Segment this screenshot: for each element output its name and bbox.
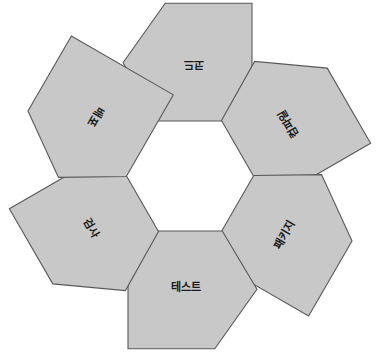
cycle-node-label-code: 코드 bbox=[184, 59, 204, 71]
diagram-canvas: 코드컴파일패키지테스트검사배포 bbox=[0, 0, 379, 353]
cycle-node-label-test: 테스트 bbox=[171, 280, 202, 293]
cycle-nodes-layer: 코드컴파일패키지테스트검사배포 bbox=[7, 3, 373, 349]
cycle-diagram: 코드컴파일패키지테스트검사배포 bbox=[0, 0, 379, 353]
